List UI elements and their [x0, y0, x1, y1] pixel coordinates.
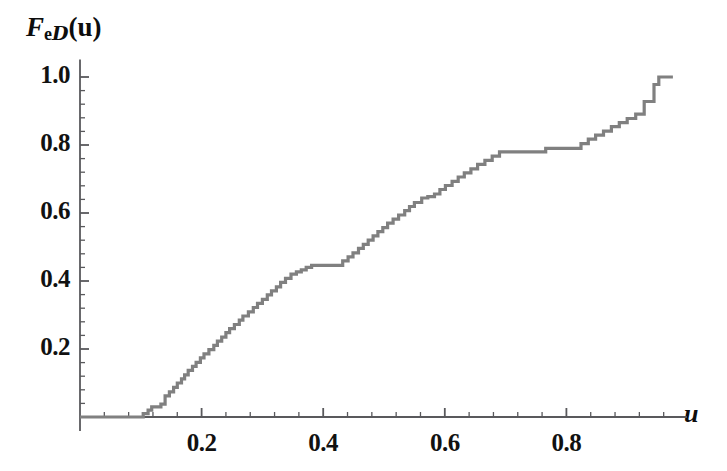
axes-group — [80, 59, 687, 431]
y-tick-label: 0.6 — [10, 197, 70, 225]
y-tick-label: 0.8 — [10, 129, 70, 157]
plot-area — [0, 0, 727, 471]
x-tick-label: 0.4 — [283, 429, 363, 457]
y-tick-label: 0.2 — [10, 333, 70, 361]
y-tick-label: 1.0 — [10, 61, 70, 89]
y-tick-label: 0.4 — [10, 265, 70, 293]
x-tick-label: 0.8 — [526, 429, 606, 457]
x-tick-label: 0.6 — [405, 429, 485, 457]
chart-figure: FeD(u) u 0.20.40.60.81.0 0.20.40.60.8 — [0, 0, 727, 471]
ecdf-step-curve — [80, 77, 673, 417]
x-tick-label: 0.2 — [162, 429, 242, 457]
